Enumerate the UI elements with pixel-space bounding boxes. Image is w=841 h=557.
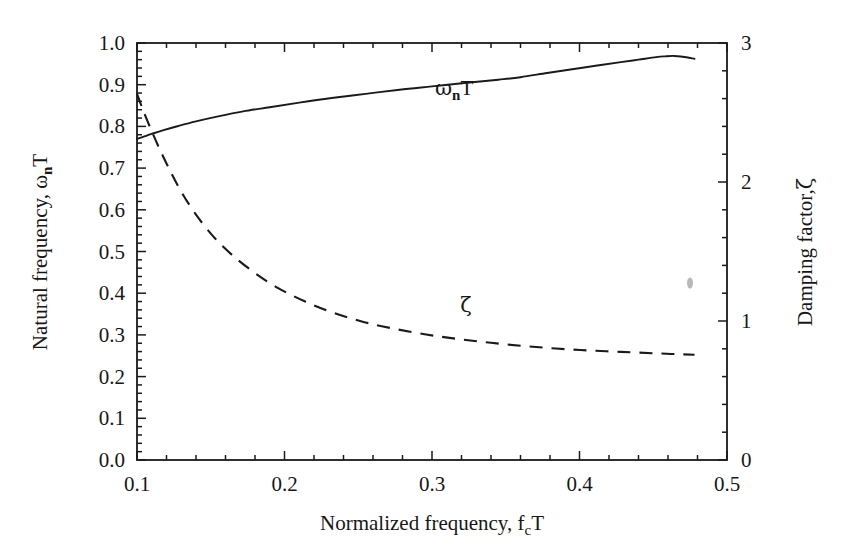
tick-label: 0.1 [99, 406, 125, 430]
y2-axis-title-symbol: ζ [793, 178, 817, 189]
tick-label: 0.4 [99, 281, 126, 305]
tick-label: 0.6 [99, 198, 125, 222]
figure-page: 0.10.20.30.40.5 0.00.10.20.30.40.50.60.7… [0, 0, 841, 557]
y-axis-title-main: Natural frequency, ω [28, 175, 52, 350]
y2-axis-tick-labels: 0123 [741, 31, 752, 472]
tick-label: 2 [741, 170, 752, 194]
chart-figure: 0.10.20.30.40.5 0.00.10.20.30.40.50.60.7… [0, 0, 841, 557]
x-axis-title-main: Normalized frequency, f [320, 511, 524, 535]
y-axis-title: Natural frequency, ωnT [28, 154, 55, 350]
tick-label: 0.2 [271, 472, 297, 496]
tick-label: 0.9 [99, 73, 125, 97]
tick-label: 0.4 [566, 472, 593, 496]
x-axis-title-tail: T [531, 511, 544, 535]
tick-label: 1 [741, 309, 752, 333]
tick-label: 0.7 [99, 156, 125, 180]
plot-frame [137, 43, 727, 460]
scan-speck-artifact [687, 278, 693, 289]
tick-label: 3 [741, 31, 752, 55]
tick-label: 0.3 [99, 323, 125, 347]
tick-label: 0.3 [419, 472, 445, 496]
y-axis-title-tail: T [28, 154, 52, 167]
tick-label: 0.5 [99, 240, 125, 264]
tick-label: 0 [741, 448, 752, 472]
curve-annotation-zeta: ζ [460, 293, 471, 317]
zeta-symbol: ζ [460, 293, 471, 317]
tick-label: 0.2 [99, 365, 125, 389]
tick-label: 0.0 [99, 448, 125, 472]
omega-tail: T [460, 76, 473, 100]
x-axis-tick-labels: 0.10.20.30.40.5 [124, 472, 740, 496]
omega-symbol: ω [435, 76, 452, 100]
tick-label: 0.5 [714, 472, 740, 496]
tick-label: 0.1 [124, 472, 150, 496]
y2-axis-title: Damping factor,ζ [793, 178, 817, 326]
y2-axis-title-main: Damping factor, [793, 189, 817, 326]
x-axis-title: Normalized frequency, fcT [320, 511, 544, 538]
tick-label: 1.0 [99, 31, 125, 55]
y-axis-tick-labels: 0.00.10.20.30.40.50.60.70.80.91.0 [99, 31, 126, 472]
tick-label: 0.8 [99, 114, 125, 138]
